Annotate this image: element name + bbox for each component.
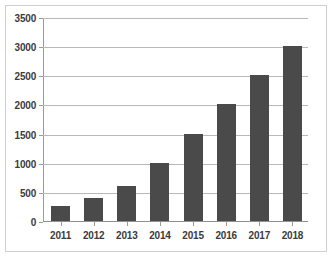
- plot-area: 0500100015002000250030003500 20112012201…: [43, 18, 308, 222]
- y-axis-tick-mark: [39, 47, 43, 48]
- y-axis-tick-label: 1000: [15, 158, 36, 169]
- y-axis-tick-label: 0: [31, 217, 36, 228]
- bar: [117, 186, 136, 221]
- y-axis-tick-label: 3500: [15, 13, 36, 24]
- y-axis-tick-label: 2000: [15, 100, 36, 111]
- y-axis-tick-mark: [39, 76, 43, 77]
- x-axis-tick-mark: [292, 222, 293, 226]
- bar: [217, 104, 236, 221]
- y-axis-tick-label: 1500: [15, 129, 36, 140]
- bar-chart-figure: 0500100015002000250030003500 20112012201…: [0, 0, 334, 261]
- x-axis-tick-label: 2013: [116, 230, 137, 241]
- bar: [51, 206, 70, 221]
- bar: [283, 46, 302, 221]
- bar: [250, 75, 269, 221]
- x-axis-tick-label: 2011: [50, 230, 71, 241]
- x-axis-tick-mark: [94, 222, 95, 226]
- gridline: [43, 47, 308, 48]
- x-axis-line: [43, 221, 308, 222]
- x-axis-tick-mark: [127, 222, 128, 226]
- x-axis-tick-mark: [193, 222, 194, 226]
- y-axis-tick-mark: [39, 193, 43, 194]
- x-axis-tick-label: 2012: [83, 230, 104, 241]
- y-axis-tick-mark: [39, 164, 43, 165]
- x-axis-tick-label: 2018: [282, 230, 303, 241]
- x-axis-tick-label: 2014: [149, 230, 170, 241]
- bar: [84, 198, 103, 221]
- y-axis-tick-mark: [39, 222, 43, 223]
- x-axis-tick-label: 2016: [215, 230, 236, 241]
- bar: [150, 163, 169, 221]
- x-axis-tick-mark: [226, 222, 227, 226]
- y-axis-tick-mark: [39, 105, 43, 106]
- y-axis-tick-mark: [39, 135, 43, 136]
- y-axis-line: [43, 18, 44, 222]
- y-axis-tick-label: 3000: [15, 42, 36, 53]
- x-axis-tick-mark: [61, 222, 62, 226]
- y-axis-tick-label: 500: [20, 187, 36, 198]
- bar: [184, 134, 203, 221]
- y-axis-tick-label: 2500: [15, 71, 36, 82]
- x-axis-tick-label: 2015: [182, 230, 203, 241]
- x-axis-tick-mark: [160, 222, 161, 226]
- y-axis-tick-mark: [39, 18, 43, 19]
- x-axis-tick-label: 2017: [249, 230, 270, 241]
- gridline: [43, 18, 308, 19]
- x-axis-tick-mark: [259, 222, 260, 226]
